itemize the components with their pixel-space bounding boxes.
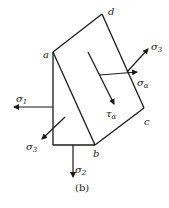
element-outline (53, 14, 144, 145)
sigma3-right-subscript: 3 (158, 46, 163, 54)
tau-alpha-subscript: α (112, 113, 117, 121)
figure-caption: (b) (75, 182, 89, 193)
sigma3-left-label: σ3 (26, 141, 38, 154)
sigma3-right-arrow (127, 49, 148, 72)
sigma-alpha-arrow (100, 72, 137, 75)
point-label-d: d (108, 6, 114, 17)
tau-alpha-label: τα (106, 108, 117, 121)
sigma1-label: σ1 (16, 93, 27, 106)
sigma2-label: σ2 (75, 164, 87, 177)
point-label-b: b (93, 148, 99, 159)
edge-a-b-diagonal (53, 52, 95, 145)
sigma1-subscript: 1 (23, 98, 27, 106)
sigma2-subscript: 2 (81, 169, 87, 177)
sigma-alpha-subscript: α (144, 82, 149, 90)
edge-a-d (53, 14, 102, 52)
point-label-c: c (144, 116, 150, 127)
point-label-a: a (43, 49, 49, 60)
sigma3-left-subscript: 3 (33, 146, 38, 154)
edge-c-b (95, 108, 144, 145)
tau-alpha-arrow (88, 52, 114, 104)
sigma-alpha-label: σα (137, 77, 149, 90)
sigma3-right-label: σ3 (151, 41, 163, 54)
stress-element-diagram: d a c b σ1 σ3 σ2 τα σα σ3 (b) (0, 0, 169, 208)
